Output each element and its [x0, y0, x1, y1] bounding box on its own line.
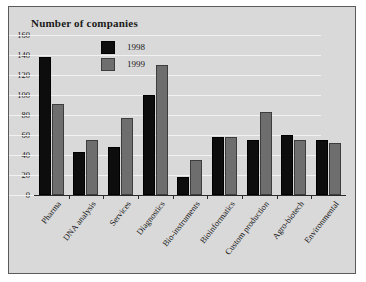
x-axis-tick-mark [138, 195, 139, 199]
x-axis-tick-mark [311, 195, 312, 199]
chart-panel: Number of companies 1998 1999 0204060801… [9, 7, 357, 275]
x-axis-label: Diagnostics [135, 199, 168, 237]
plot-area [34, 35, 346, 195]
x-axis-label: Services [107, 199, 133, 228]
bar-1999 [190, 160, 202, 195]
bar-group [69, 35, 104, 195]
bar-group [103, 35, 138, 195]
x-axis-label: Agro-biotech [270, 199, 306, 241]
x-axis-label: Bio-instruments [160, 199, 202, 248]
x-axis-tick-mark [242, 195, 243, 199]
bar-1999 [329, 143, 341, 195]
bar-1999 [52, 104, 64, 195]
x-axis-tick-mark [173, 195, 174, 199]
x-axis-baseline [34, 195, 346, 196]
bar-1998 [212, 137, 224, 195]
chart-figure: Number of companies 1998 1999 0204060801… [8, 6, 356, 274]
bar-1999 [121, 118, 133, 195]
bar-group [311, 35, 346, 195]
bar-group [207, 35, 242, 195]
x-axis-tick-mark [103, 195, 104, 199]
bar-group [34, 35, 69, 195]
x-axis-label: DNA analysis [61, 199, 98, 243]
bar-1998 [39, 57, 51, 195]
bar-1999 [86, 140, 98, 195]
x-axis-tick-mark [277, 195, 278, 199]
bar-1998 [247, 140, 259, 195]
bar-1999 [225, 137, 237, 195]
x-axis-tick-mark [69, 195, 70, 199]
bar-1998 [143, 95, 155, 195]
bar-1998 [73, 152, 85, 195]
bar-1998 [281, 135, 293, 195]
x-axis-label: Pharma [39, 199, 63, 226]
chart-title: Number of companies [31, 17, 138, 29]
bar-group [242, 35, 277, 195]
x-axis-tick-mark [207, 195, 208, 199]
bar-1999 [260, 112, 272, 195]
bar-1998 [177, 177, 189, 195]
bar-group [138, 35, 173, 195]
bar-1999 [294, 140, 306, 195]
x-axis-label: Environmental [302, 199, 341, 245]
bar-group [173, 35, 208, 195]
bar-1998 [316, 140, 328, 195]
bar-1999 [156, 65, 168, 195]
bar-group [277, 35, 312, 195]
bar-1998 [108, 147, 120, 195]
